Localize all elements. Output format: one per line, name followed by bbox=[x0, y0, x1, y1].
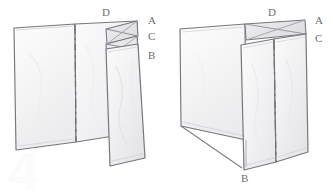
right-figure-label-a: A bbox=[315, 15, 323, 26]
right-figure-front-right-face bbox=[274, 34, 308, 162]
right-figure-back-face bbox=[180, 24, 246, 140]
sketch-canvas: D A C B bbox=[0, 0, 333, 192]
right-figure-label-d: D bbox=[268, 7, 276, 18]
right-figure-label-c: C bbox=[315, 33, 323, 44]
right-figure-drawing bbox=[0, 0, 333, 192]
watermark-number: 4 bbox=[8, 144, 36, 192]
right-figure-label-b: B bbox=[241, 173, 249, 184]
right-figure: D A C B bbox=[0, 0, 333, 192]
